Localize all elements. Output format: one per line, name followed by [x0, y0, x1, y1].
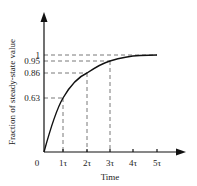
x-axis-title: Time [101, 172, 120, 182]
y-axis-title: Fraction of steady-state value [7, 39, 17, 145]
y-axis-arrow-icon [41, 12, 48, 22]
y-tick-0.95: 0.95 [24, 56, 40, 66]
x-tick-3tau: 3τ [106, 158, 115, 168]
exponential-curve [44, 55, 157, 152]
y-tick-0.63: 0.63 [24, 93, 40, 103]
y-tick-0.86: 0.86 [24, 68, 40, 78]
x-tick-4tau: 4τ [129, 158, 138, 168]
reference-lines [44, 55, 157, 152]
x-tick-0: 0 [35, 158, 40, 168]
chart: 1 0.95 0.86 0.63 0 1τ 2τ 3τ 4τ 5τ Time F… [0, 0, 197, 186]
x-tick-2tau: 2τ [83, 158, 92, 168]
x-tick-5tau: 5τ [153, 158, 162, 168]
axes [44, 18, 178, 152]
x-axis-arrow-icon [176, 149, 186, 156]
x-tick-1tau: 1τ [59, 158, 68, 168]
